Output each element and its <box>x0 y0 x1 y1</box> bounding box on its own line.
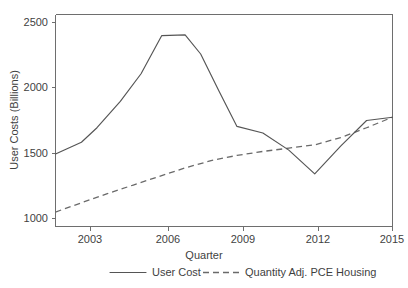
x-tick-label-2015: 2015 <box>380 233 404 245</box>
legend-label-quantity-adj-pce-housing: Quantity Adj. PCE Housing <box>245 266 376 278</box>
y-axis-title: User Costs (Billions) <box>8 70 20 170</box>
chart-legend: User Cost Quantity Adj. PCE Housing <box>110 266 376 278</box>
x-tick-label-2009: 2009 <box>231 233 255 245</box>
line-chart-canvas: 2500 2000 1500 1000 2003 2006 2009 2012 … <box>0 0 408 288</box>
chart-figure: 2500 2000 1500 1000 2003 2006 2009 2012 … <box>0 0 408 288</box>
x-tick-label-2012: 2012 <box>306 233 330 245</box>
y-tick-label-2500: 2500 <box>24 16 48 28</box>
y-tick-label-1000: 1000 <box>24 212 48 224</box>
series-line-user-cost <box>56 35 393 174</box>
x-tick-label-2003: 2003 <box>78 233 102 245</box>
y-axis-ticks: 2500 2000 1500 1000 <box>24 16 56 224</box>
legend-label-user-cost: User Cost <box>152 266 201 278</box>
x-axis-ticks: 2003 2006 2009 2012 2015 <box>78 227 404 246</box>
y-tick-label-2000: 2000 <box>24 81 48 93</box>
x-tick-label-2006: 2006 <box>156 233 180 245</box>
y-tick-label-1500: 1500 <box>24 147 48 159</box>
x-axis-title: Quarter <box>185 249 223 261</box>
series-line-quantity-adj-pce-housing <box>56 117 393 212</box>
